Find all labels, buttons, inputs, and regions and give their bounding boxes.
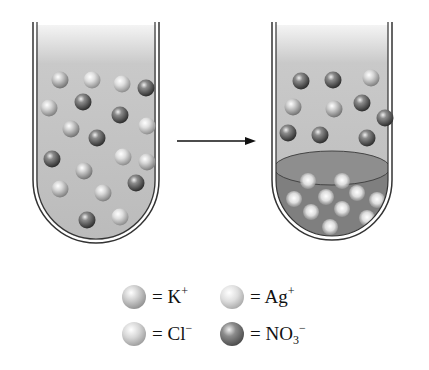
- agcl-precipitate-particle: [349, 185, 365, 201]
- precipitation-diagram: = K+ = Ag+ = Cl− = NO3−: [0, 0, 429, 370]
- legend-item-k: = K+: [122, 285, 188, 309]
- k-ion: [76, 163, 93, 180]
- test-tube-before: [33, 22, 159, 243]
- cl-ion: [363, 70, 380, 87]
- cl-ion: [41, 100, 58, 117]
- k-ion: [285, 99, 302, 116]
- cl-ion: [139, 154, 156, 171]
- legend-label-k: = K+: [152, 286, 188, 308]
- ag-ion: [114, 76, 131, 93]
- legend-item-cl: = Cl−: [122, 322, 192, 346]
- no3-ion: [75, 94, 92, 111]
- no3-ion: [354, 95, 371, 112]
- agcl-precipitate-particle: [334, 201, 350, 217]
- k-ion-icon: [122, 285, 146, 309]
- no3-ion: [359, 130, 376, 147]
- legend-label-cl: = Cl−: [152, 323, 192, 345]
- legend-label-no3: = NO3−: [250, 323, 306, 345]
- agcl-precipitate-particle: [286, 191, 302, 207]
- no3-ion: [377, 110, 394, 127]
- legend-item-ag: = Ag+: [220, 285, 294, 309]
- reaction-arrow: [177, 137, 256, 145]
- k-ion: [326, 101, 343, 118]
- ag-ion: [139, 118, 156, 135]
- no3-ion: [89, 130, 106, 147]
- no3-ion: [325, 72, 342, 89]
- no3-ion: [312, 127, 329, 144]
- no3-ion: [138, 80, 155, 97]
- legend-label-ag: = Ag+: [250, 286, 294, 308]
- legend-item-no3: = NO3−: [220, 322, 306, 346]
- no3-ion: [44, 151, 61, 168]
- ag-ion: [112, 209, 129, 226]
- agcl-precipitate-particle: [318, 189, 334, 205]
- cl-ion: [52, 181, 69, 198]
- ag-ion: [84, 72, 101, 89]
- no3-ion: [293, 73, 310, 90]
- no3-ion-icon: [220, 322, 244, 346]
- k-ion: [63, 121, 80, 138]
- agcl-precipitate-particle: [303, 204, 319, 220]
- agcl-precipitate-particle: [322, 219, 338, 235]
- test-tube-after: [270, 22, 395, 268]
- agcl-precipitate-particle: [334, 173, 350, 189]
- cl-ion: [95, 185, 112, 202]
- no3-ion: [79, 212, 96, 229]
- ag-ion: [115, 149, 132, 166]
- diagram-canvas: [0, 0, 429, 370]
- no3-ion: [112, 107, 129, 124]
- ag-ion-icon: [220, 285, 244, 309]
- no3-ion: [280, 125, 297, 142]
- cl-ion-icon: [122, 322, 146, 346]
- agcl-precipitate-particle: [300, 173, 316, 189]
- k-ion: [52, 72, 69, 89]
- no3-ion: [128, 175, 145, 192]
- precipitate-layer: [270, 151, 395, 268]
